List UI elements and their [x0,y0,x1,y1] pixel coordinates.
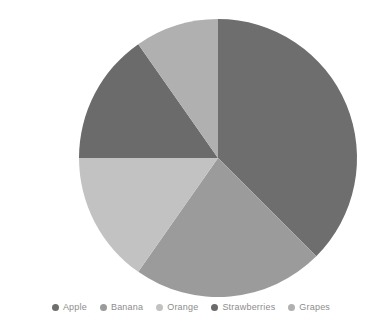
legend-label: Strawberries [222,303,275,312]
legend-label: Banana [111,303,143,312]
legend-swatch-icon [156,304,163,311]
legend-label: Orange [167,303,198,312]
legend-item-banana[interactable]: Banana [100,303,143,312]
legend-item-strawberries[interactable]: Strawberries [211,303,275,312]
legend-item-apple[interactable]: Apple [52,303,87,312]
legend-item-orange[interactable]: Orange [156,303,198,312]
pie-svg [0,0,382,300]
pie-chart-figure: AppleBananaOrangeStrawberriesGrapes [0,0,382,331]
legend-swatch-icon [100,304,107,311]
pie-plot-area [0,0,382,300]
legend-label: Grapes [299,303,330,312]
legend-item-grapes[interactable]: Grapes [288,303,330,312]
legend-label: Apple [63,303,87,312]
legend-swatch-icon [211,304,218,311]
legend-swatch-icon [288,304,295,311]
legend-swatch-icon [52,304,59,311]
chart-legend: AppleBananaOrangeStrawberriesGrapes [0,296,382,318]
pie-slice-group [79,19,357,297]
